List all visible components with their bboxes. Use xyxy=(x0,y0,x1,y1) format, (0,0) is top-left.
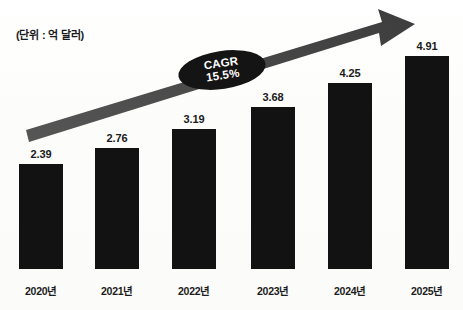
bar-value-label: 3.19 xyxy=(172,113,216,125)
bar-category-label: 2025년 xyxy=(405,283,449,298)
paper-background xyxy=(0,0,463,310)
bar-group: 2.39 2020년 xyxy=(19,0,63,310)
bar-category-label: 2021년 xyxy=(95,283,139,298)
bar-rect xyxy=(405,56,449,269)
bar-value-label: 4.25 xyxy=(328,67,372,79)
bar-rect xyxy=(95,148,139,269)
growth-arrow-icon xyxy=(0,0,463,310)
bar-rect xyxy=(19,164,63,269)
bar-chart-figure: (단위 : 억 달러) CAGR 15.5% 2.39 2020년 2.76 2… xyxy=(0,0,463,310)
bar-group: 2.76 2021년 xyxy=(95,0,139,310)
bar-value-label: 2.39 xyxy=(19,148,63,160)
bar-category-label: 2020년 xyxy=(19,283,63,298)
bar-group: 4.91 2025년 xyxy=(405,0,449,310)
bar-value-label: 3.68 xyxy=(251,91,295,103)
bar-category-label: 2022년 xyxy=(172,283,216,298)
bar-rect xyxy=(328,83,372,269)
bar-category-label: 2023년 xyxy=(251,283,295,298)
bar-group: 4.25 2024년 xyxy=(328,0,372,310)
bar-category-label: 2024년 xyxy=(328,283,372,298)
bar-group: 3.68 2023년 xyxy=(251,0,295,310)
bar-rect xyxy=(251,107,295,269)
bar-value-label: 4.91 xyxy=(405,40,449,52)
bar-value-label: 2.76 xyxy=(95,132,139,144)
bar-rect xyxy=(172,129,216,269)
bar-group: 3.19 2022년 xyxy=(172,0,216,310)
